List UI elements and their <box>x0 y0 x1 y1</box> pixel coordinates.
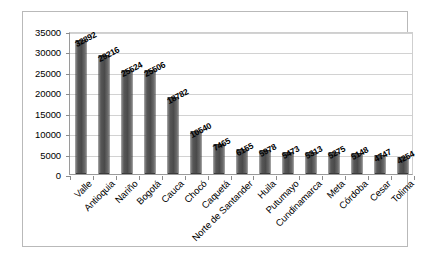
x-tick-label: Bogotá <box>134 178 163 207</box>
y-tick-label: 15000 <box>35 108 61 119</box>
x-tick-label: Tolima <box>389 178 416 205</box>
x-tick-mark <box>414 176 415 180</box>
y-tick-label: 0 <box>56 170 61 181</box>
y-tick-label: 5000 <box>40 149 61 160</box>
y-tick-label: 20000 <box>35 88 61 99</box>
chart-frame: 05000100001500020000250003000035000 3289… <box>22 11 408 247</box>
bar[interactable] <box>145 70 156 174</box>
y-tick-label: 25000 <box>35 67 61 78</box>
x-tick-label: Cauca <box>159 178 186 205</box>
bar-slot <box>139 33 162 174</box>
chart-figure: 05000100001500020000250003000035000 3289… <box>0 0 435 274</box>
bar-slot <box>116 33 139 174</box>
y-tick-label: 30000 <box>35 47 61 58</box>
y-tick-label: 35000 <box>35 27 61 38</box>
x-axis: ValleAntioquiaNariñoBogotáCaucaChocóCaqu… <box>69 178 413 258</box>
bar-slot <box>70 33 93 174</box>
bar[interactable] <box>168 97 179 174</box>
bar[interactable] <box>122 70 133 174</box>
y-tick-label: 10000 <box>35 129 61 140</box>
bar[interactable] <box>99 55 110 174</box>
bar-slot <box>208 33 231 174</box>
x-tick-label: Cesar <box>367 178 392 203</box>
plot-area: 3289229216255242550618782105407465615559… <box>69 32 413 175</box>
bar[interactable] <box>76 40 87 174</box>
bar-slot <box>185 33 208 174</box>
y-axis: 05000100001500020000250003000035000 <box>23 12 65 246</box>
